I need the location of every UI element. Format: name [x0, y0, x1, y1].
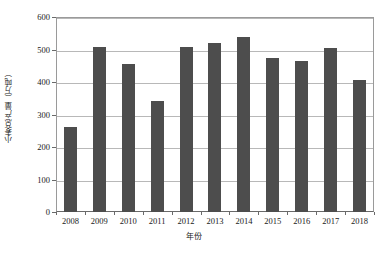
- bar-slot: [85, 17, 114, 212]
- x-tick-mark: [258, 212, 259, 215]
- bar-2011[interactable]: [151, 101, 164, 212]
- x-tick-mark: [172, 212, 173, 215]
- x-tick-mark: [287, 212, 288, 215]
- bar-2014[interactable]: [237, 37, 250, 212]
- bar-chart: 小麦总产量（万吨） 010020030040050060020082009201…: [0, 0, 387, 258]
- bar-slot: [143, 17, 172, 212]
- bar-slot: [229, 17, 258, 212]
- bar-2016[interactable]: [295, 61, 308, 212]
- bar-2009[interactable]: [93, 47, 106, 212]
- x-tick-label: 2013: [207, 216, 224, 226]
- x-tick-mark: [316, 212, 317, 215]
- x-tick-mark: [229, 212, 230, 215]
- bar-slot: [114, 17, 143, 212]
- x-tick-label: 2015: [264, 216, 281, 226]
- x-tick-label: 2008: [62, 216, 79, 226]
- bar-2013[interactable]: [208, 43, 221, 212]
- x-tick-mark: [56, 212, 57, 215]
- bar-2008[interactable]: [64, 127, 77, 212]
- x-axis-title: 年份: [0, 230, 387, 241]
- x-tick-label: 2014: [235, 216, 252, 226]
- x-tick-label: 2011: [149, 216, 166, 226]
- x-tick-label: 2009: [91, 216, 108, 226]
- x-tick-mark: [114, 212, 115, 215]
- bar-slot: [201, 17, 230, 212]
- x-tick-label: 2018: [351, 216, 368, 226]
- x-tick-label: 2016: [293, 216, 310, 226]
- x-tick-mark: [85, 212, 86, 215]
- x-tick-mark: [374, 212, 375, 215]
- bar-2017[interactable]: [324, 48, 337, 212]
- y-tick-label: 0: [8, 207, 50, 217]
- bar-2010[interactable]: [122, 64, 135, 212]
- x-tick-mark: [143, 212, 144, 215]
- bar-2015[interactable]: [266, 58, 279, 212]
- bar-slot: [287, 17, 316, 212]
- y-tick-label: 300: [8, 110, 50, 120]
- bar-slot: [172, 17, 201, 212]
- y-tick-label: 100: [8, 175, 50, 185]
- x-tick-mark: [201, 212, 202, 215]
- x-tick-label: 2010: [120, 216, 137, 226]
- bar-2012[interactable]: [180, 47, 193, 212]
- bar-slot: [316, 17, 345, 212]
- y-tick-label: 600: [8, 12, 50, 22]
- bar-2018[interactable]: [353, 80, 366, 212]
- x-tick-label: 2012: [178, 216, 195, 226]
- y-tick-label: 500: [8, 45, 50, 55]
- y-tick-label: 200: [8, 142, 50, 152]
- y-tick-label: 400: [8, 77, 50, 87]
- bar-slot: [345, 17, 374, 212]
- bar-slot: [258, 17, 287, 212]
- x-tick-mark: [345, 212, 346, 215]
- x-tick-label: 2017: [322, 216, 339, 226]
- bar-slot: [56, 17, 85, 212]
